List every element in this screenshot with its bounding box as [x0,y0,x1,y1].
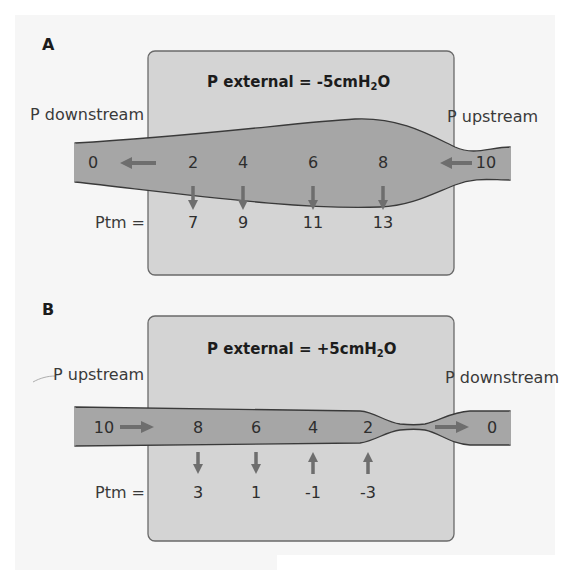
end-value-right-b: 0 [487,418,497,437]
external-pressure-label-a: P external = -5cmH2O [207,73,390,92]
ptm-value: 11 [303,213,323,232]
external-pressure-tail-b: O [384,340,397,358]
pressure-value: 2 [188,153,198,172]
upstream-label-a: P upstream [447,107,538,126]
ptm-value: 3 [193,483,203,502]
end-value-left-b: 10 [94,418,114,437]
pressure-value: 6 [251,418,261,437]
pressure-value: 4 [238,153,248,172]
ptm-value: -3 [360,483,376,502]
downstream-label-b: P downstream [445,368,559,387]
pressure-value: 8 [193,418,203,437]
ptm-value: 1 [251,483,261,502]
upstream-label-b: P upstream [53,365,144,384]
external-pressure-text-b: P external = +5cmH [207,340,377,358]
panel-letter-a: A [42,35,54,54]
end-value-right-a: 10 [476,153,496,172]
ptm-value: 13 [373,213,393,232]
ptm-label-a: Ptm = [95,213,145,232]
diagram: A P external = -5cmH2O P downstream P up… [0,0,570,578]
pressure-value: 2 [363,418,373,437]
ptm-value: 7 [188,213,198,232]
end-value-left-a: 0 [88,153,98,172]
downstream-label-a: P downstream [30,105,144,124]
external-pressure-text-a: P external = -5cmH [207,73,371,91]
ptm-label-b: Ptm = [95,483,145,502]
panel-letter-b: B [42,300,54,319]
external-pressure-tail-a: O [377,73,390,91]
external-pressure-subscript-b: 2 [377,348,384,359]
pressure-value: 6 [308,153,318,172]
ptm-value: -1 [305,483,321,502]
pressure-value: 8 [378,153,388,172]
ptm-value: 9 [238,213,248,232]
pressure-value: 4 [308,418,318,437]
external-pressure-label-b: P external = +5cmH2O [207,340,397,359]
